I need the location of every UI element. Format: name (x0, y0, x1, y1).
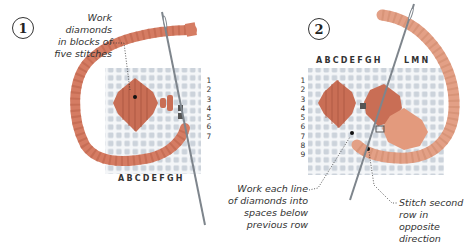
row-labels: 123456789 (299, 76, 307, 160)
row-labels: 1234567 (205, 76, 213, 141)
column-labels-left: ABCDEFGH (316, 56, 383, 65)
annotation-stitch-second-row: Stitch second row in opposite direction (399, 197, 464, 245)
column-labels-right: LMN (404, 56, 430, 65)
step-number-1: 1 (12, 17, 34, 39)
step-1-panel: 1 Work diamonds in blocks of five stitch… (0, 0, 232, 235)
step-2-panel: 2 ABCDEFGH LMN 123456789 Work each line … (232, 0, 464, 235)
annotation-work-diamonds: Work diamonds in blocks of five stitches (40, 12, 112, 60)
step-1-illustration (0, 0, 232, 235)
annotation-work-each-line: Work each line of diamonds into spaces b… (222, 183, 308, 231)
step-number-2: 2 (308, 18, 330, 40)
column-labels: ABCDEFGH (118, 174, 185, 183)
